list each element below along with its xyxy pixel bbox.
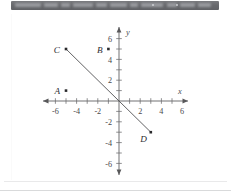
point-c-marker — [65, 48, 68, 51]
point-c-label: C — [54, 45, 61, 55]
x-tick-label: -4 — [73, 107, 80, 116]
data-points: A B C D — [53, 45, 152, 144]
y-tick-label: 6 — [108, 35, 112, 44]
point-a-label: A — [53, 86, 60, 96]
x-tick-label: -2 — [94, 107, 101, 116]
point-b-label: B — [97, 45, 103, 55]
screenshot-canvas: -6 -4 -2 2 4 6 6 4 2 -2 -4 -6 x y — [0, 0, 231, 195]
coordinate-plane-chart: -6 -4 -2 2 4 6 6 4 2 -2 -4 -6 x y — [0, 10, 231, 185]
x-tick-label: 4 — [159, 107, 163, 116]
page-divider — [0, 190, 231, 191]
y-tick-label: 4 — [108, 56, 112, 65]
redacted-title-bar — [11, 1, 219, 10]
y-tick-label: 2 — [108, 76, 112, 85]
point-d-marker — [150, 131, 153, 134]
x-axis — [43, 99, 188, 104]
y-axis-label: y — [125, 28, 130, 37]
point-b-marker — [107, 48, 110, 51]
point-a-marker — [65, 89, 68, 92]
x-tick-label: 2 — [138, 107, 142, 116]
y-tick-label: -4 — [105, 139, 112, 148]
y-tick-label: -2 — [105, 118, 112, 127]
x-tick-label: 6 — [180, 107, 184, 116]
y-tick-label: -6 — [105, 160, 112, 169]
point-d-label: D — [139, 134, 147, 144]
x-axis-label: x — [177, 87, 182, 96]
chart-svg: -6 -4 -2 2 4 6 6 4 2 -2 -4 -6 x y — [0, 10, 231, 185]
x-tick-label: -6 — [52, 107, 59, 116]
